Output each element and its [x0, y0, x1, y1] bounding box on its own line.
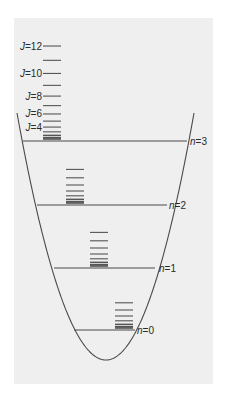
vibrational-label-n1: n=1 — [159, 263, 176, 274]
j-label-4: J=4 — [25, 122, 43, 133]
rotational-ladders — [43, 46, 133, 328]
vibrational-levels: n=3n=2n=1n=0 — [23, 136, 207, 336]
j-label-6: J=6 — [25, 108, 43, 119]
potential-well-curve — [17, 113, 194, 360]
parabola-icon — [17, 113, 194, 360]
j-label-10: J=10 — [19, 68, 42, 79]
j-label-8: J=8 — [25, 91, 43, 102]
vibrational-label-n3: n=3 — [190, 136, 207, 147]
j-labels: J=12J=10J=8J=6J=4 — [19, 41, 42, 133]
vibrational-label-n2: n=2 — [169, 200, 186, 211]
energy-level-diagram: n=3n=2n=1n=0 J=12J=10J=8J=6J=4 — [0, 0, 225, 395]
vibrational-label-n0: n=0 — [137, 325, 154, 336]
j-label-12: J=12 — [19, 41, 42, 52]
